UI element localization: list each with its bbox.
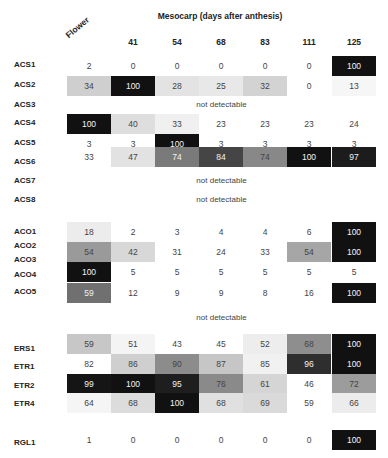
heatmap-cell: 0 — [155, 56, 199, 76]
heatmap-cell: 87 — [199, 354, 243, 374]
heatmap-cell: 4 — [199, 222, 243, 242]
column-header-68: 68 — [199, 37, 243, 47]
heatmap-cell: 84 — [199, 147, 243, 167]
heatmap-cell: 47 — [111, 147, 155, 167]
heatmap-cell: 54 — [287, 242, 331, 262]
heatmap-cell: 28 — [155, 76, 199, 96]
heatmap-cell: 100 — [332, 242, 376, 262]
not-detectable-label: not detectable — [67, 176, 376, 185]
heatmap-cell: 33 — [243, 242, 287, 262]
row-label-acs6: ACS6 — [14, 157, 35, 167]
heatmap-cell: 68 — [287, 334, 331, 354]
row-label-acs8: ACS8 — [14, 195, 35, 205]
row-label-acs7: ACS7 — [14, 176, 35, 186]
heatmap-cell: 2 — [111, 222, 155, 242]
column-header-54: 54 — [155, 37, 199, 47]
heatmap-cell: 24 — [199, 242, 243, 262]
heatmap-cell: 9 — [199, 283, 243, 303]
heatmap-cell: 82 — [67, 354, 111, 374]
heatmap-cell: 0 — [199, 430, 243, 450]
heatmap-cell: 51 — [111, 334, 155, 354]
heatmap-cell: 5 — [243, 262, 287, 282]
row-label-etr2: ETR2 — [14, 381, 34, 391]
heatmap-cell: 100 — [155, 393, 199, 413]
heatmap-cell: 6 — [287, 222, 331, 242]
heatmap-cell: 33 — [67, 147, 111, 167]
heatmap-cell: 74 — [155, 147, 199, 167]
heatmap-cell: 61 — [243, 374, 287, 394]
heatmap-cell: 100 — [111, 76, 155, 96]
heatmap-cell: 2 — [67, 56, 111, 76]
not-detectable-label: not detectable — [67, 195, 376, 204]
heatmap-cell: 59 — [67, 334, 111, 354]
heatmap-cell: 0 — [287, 76, 331, 96]
chart-title: Mesocarp (days after anthesis) — [140, 11, 300, 21]
column-header-111: 111 — [287, 37, 331, 47]
heatmap-cell: 23 — [287, 114, 331, 134]
heatmap-cell: 59 — [67, 283, 111, 303]
heatmap-cell: 100 — [332, 283, 376, 303]
heatmap-cell: 45 — [199, 334, 243, 354]
heatmap-cell: 100 — [67, 262, 111, 282]
heatmap-cell: 100 — [332, 430, 376, 450]
heatmap-cell: 68 — [199, 393, 243, 413]
row-label-etr4: ETR4 — [14, 399, 34, 409]
heatmap-cell: 95 — [155, 374, 199, 394]
heatmap-cell: 5 — [199, 262, 243, 282]
row-label-rgl1: RGL1 — [14, 438, 35, 448]
column-header-125: 125 — [332, 37, 376, 47]
heatmap-cell: 16 — [287, 283, 331, 303]
heatmap-cell: 52 — [243, 334, 287, 354]
heatmap-cell: 12 — [111, 283, 155, 303]
heatmap-cell: 100 — [332, 354, 376, 374]
heatmap-cell: 100 — [332, 334, 376, 354]
heatmap-cell: 96 — [287, 354, 331, 374]
heatmap-cell: 64 — [67, 393, 111, 413]
heatmap-cell: 76 — [199, 374, 243, 394]
heatmap-cell: 0 — [287, 430, 331, 450]
heatmap-cell: 23 — [243, 114, 287, 134]
heatmap-cell: 42 — [111, 242, 155, 262]
heatmap-cell: 100 — [287, 147, 331, 167]
heatmap-cell: 85 — [243, 354, 287, 374]
heatmap-cell: 5 — [155, 262, 199, 282]
row-label-acs2: ACS2 — [14, 80, 35, 90]
heatmap-cell: 97 — [332, 147, 376, 167]
heatmap-cell: 33 — [155, 114, 199, 134]
heatmap-cell: 5 — [111, 262, 155, 282]
row-label-aco1: ACO1 — [14, 227, 36, 237]
heatmap-cell: 100 — [111, 374, 155, 394]
not-detectable-label: not detectable — [67, 100, 376, 109]
heatmap-cell: 100 — [332, 56, 376, 76]
heatmap-cell: 86 — [111, 354, 155, 374]
row-label-etr1: ETR1 — [14, 362, 34, 372]
column-header-83: 83 — [243, 37, 287, 47]
heatmap-cell: 24 — [332, 114, 376, 134]
heatmap-cell: 66 — [332, 393, 376, 413]
row-label-aco3: ACO3 — [14, 255, 36, 265]
row-label-aco2: ACO2 — [14, 241, 36, 251]
heatmap-cell: 43 — [155, 334, 199, 354]
row-label-aco5: ACO5 — [14, 287, 36, 297]
heatmap-cell: 5 — [287, 262, 331, 282]
heatmap-cell: 40 — [111, 114, 155, 134]
heatmap-cell: 0 — [111, 430, 155, 450]
column-header-flower: Flower — [64, 15, 91, 40]
heatmap-cell: 3 — [155, 222, 199, 242]
heatmap-cell: 69 — [243, 393, 287, 413]
heatmap-cell: 54 — [67, 242, 111, 262]
heatmap-cell: 32 — [243, 76, 287, 96]
heatmap-cell: 8 — [243, 283, 287, 303]
not-detectable-label: not detectable — [67, 313, 376, 322]
row-label-aco4: ACO4 — [14, 270, 36, 280]
heatmap-cell: 34 — [67, 76, 111, 96]
heatmap-cell: 99 — [67, 374, 111, 394]
heatmap-cell: 0 — [287, 56, 331, 76]
heatmap-cell: 46 — [287, 374, 331, 394]
heatmap-cell: 31 — [155, 242, 199, 262]
heatmap-cell: 59 — [287, 393, 331, 413]
heatmap-cell: 9 — [155, 283, 199, 303]
heatmap-cell: 18 — [67, 222, 111, 242]
heatmap-cell: 0 — [243, 430, 287, 450]
heatmap-cell: 68 — [111, 393, 155, 413]
